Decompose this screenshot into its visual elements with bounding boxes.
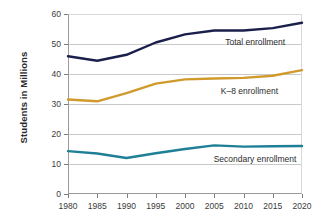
series-label-k8: K–8 enrollment <box>221 86 278 96</box>
enrollment-line-chart: Students in Millions 0102030405060 19801… <box>0 0 330 217</box>
series-label-total: Total enrollment <box>225 37 285 47</box>
series-lines-layer <box>0 0 330 217</box>
series-label-secondary: Secondary enrollment <box>214 154 297 164</box>
